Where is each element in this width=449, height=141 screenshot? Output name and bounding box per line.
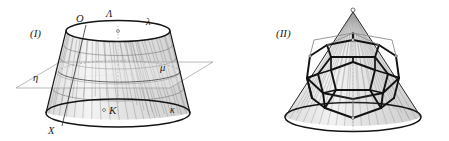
label-K: K [108,104,117,116]
label-X: X [47,125,55,136]
label-O: O [76,13,84,24]
figure-plate: (I) O Λ λ η μ X K κ [0,0,449,141]
label-mu: μ [159,62,165,73]
label-eta: η [33,72,38,83]
figure-one-caption: (I) [30,27,41,40]
geometry-plate-svg: (I) O Λ λ η μ X K κ [0,0,449,141]
figure-two-caption: (II) [276,27,291,40]
figure-one-group: (I) O Λ λ η μ X K κ [16,8,213,136]
cone-apex-marker [351,8,355,12]
label-lambda: λ [145,16,151,27]
dodeca-top-face [327,40,379,57]
figure-two-group: (II) [276,8,421,132]
label-kappa: κ [170,104,175,115]
label-Lambda: Λ [105,8,113,19]
